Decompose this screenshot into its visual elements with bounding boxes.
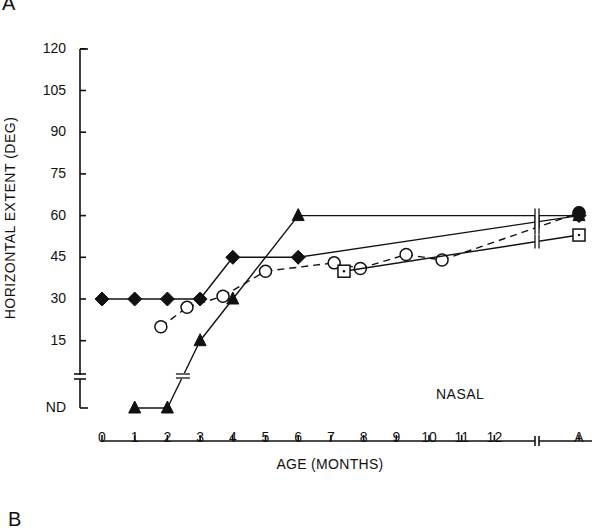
- x-tick-label: 1: [120, 429, 150, 445]
- y-axis-label: HORIZONTAL EXTENT (DEG): [2, 83, 18, 353]
- series-open-square: [338, 229, 585, 277]
- series-filled-diamond: [95, 209, 586, 306]
- diamond-marker: [128, 292, 142, 306]
- x-tick-label: 11: [447, 429, 477, 445]
- x-axis-label: AGE (MONTHS): [230, 456, 430, 472]
- y-tick-label: 45: [26, 248, 66, 264]
- triangle-marker: [129, 401, 141, 413]
- x-tick-label: 9: [381, 429, 411, 445]
- circle-marker: [155, 321, 167, 333]
- x-tick-label: 5: [251, 429, 281, 445]
- series-open-circle: [155, 207, 585, 333]
- x-tick-label: 2: [152, 429, 182, 445]
- series-filled-triangle: [129, 209, 585, 413]
- x-tick-label: 12: [479, 429, 509, 445]
- x-tick-label: 0: [87, 429, 117, 445]
- y-tick-label: 60: [26, 207, 66, 223]
- x-tick-label: 8: [349, 429, 379, 445]
- chart-plot: [0, 0, 592, 532]
- diamond-marker: [95, 292, 109, 306]
- y-tick-label: 75: [26, 165, 66, 181]
- x-tick-label: 7: [316, 429, 346, 445]
- x-tick-label: 10: [414, 429, 444, 445]
- series-layer: [95, 207, 586, 413]
- y-tick-label: 30: [26, 290, 66, 306]
- circle-marker: [260, 265, 272, 277]
- diamond-marker: [291, 250, 305, 264]
- y-tick-label: 105: [26, 82, 66, 98]
- x-tick-label: 3: [185, 429, 215, 445]
- circle-marker: [181, 301, 193, 313]
- y-tick-label: 120: [26, 40, 66, 56]
- triangle-marker: [292, 209, 304, 221]
- x-tick-label: 6: [283, 429, 313, 445]
- x-tick-label: 4: [218, 429, 248, 445]
- y-tick-label: 90: [26, 123, 66, 139]
- axes: [74, 49, 592, 446]
- y-tick-label: 15: [26, 332, 66, 348]
- diamond-marker: [160, 292, 174, 306]
- diamond-marker: [226, 250, 240, 264]
- circle-marker: [217, 290, 229, 302]
- circle-marker: [400, 249, 412, 261]
- x-tick-label: A: [564, 429, 592, 445]
- y-tick-label: ND: [26, 399, 66, 415]
- triangle-marker: [161, 401, 173, 413]
- nasal-annotation: NASAL: [436, 386, 484, 402]
- overlap-marker-adult: [573, 207, 585, 219]
